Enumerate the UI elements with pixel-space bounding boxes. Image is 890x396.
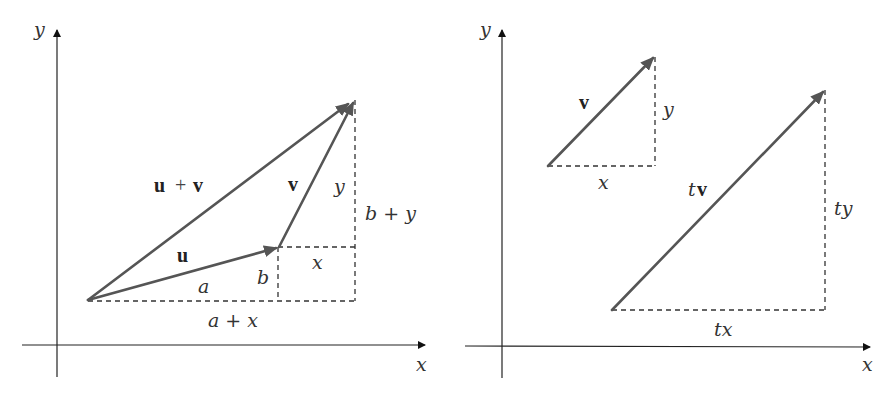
x-axis-label: x: [416, 353, 427, 375]
label-a: a: [198, 275, 209, 297]
panel-vector-addition: y x u + v u v a b x y a + x b + y: [22, 18, 427, 377]
label-b: b: [257, 266, 269, 288]
vector-v: [548, 58, 653, 166]
label-x: x: [598, 171, 609, 193]
label-y: y: [333, 175, 345, 197]
label-u: u: [177, 244, 188, 266]
label-x: x: [312, 251, 323, 273]
label-b-plus-y: b + y: [365, 202, 416, 224]
x-axis-label: x: [862, 353, 873, 375]
label-v: v: [288, 173, 298, 195]
label-u-plus-v: u + v: [154, 174, 203, 196]
svg-text:v: v: [697, 178, 707, 200]
panel-scalar-multiplication: y x v x y t v tx ty: [465, 18, 873, 378]
label-tv: t v: [688, 178, 707, 200]
vector-diagram: y x u + v u v a b x y a + x b + y y x: [0, 0, 890, 396]
label-tx: tx: [714, 318, 733, 340]
x-axis: [465, 346, 870, 347]
svg-text:u: u: [154, 174, 165, 196]
svg-text:v: v: [193, 174, 203, 196]
label-y: y: [662, 98, 674, 120]
label-a-plus-x: a + x: [208, 309, 258, 331]
y-axis-label: y: [479, 18, 491, 40]
vector-tv: [612, 92, 823, 310]
vector-u-plus-v: [88, 104, 348, 300]
svg-text:+: +: [175, 174, 186, 196]
label-v: v: [579, 91, 589, 113]
svg-text:t: t: [688, 178, 696, 200]
label-ty: ty: [834, 197, 853, 219]
y-axis-label: y: [33, 18, 45, 40]
